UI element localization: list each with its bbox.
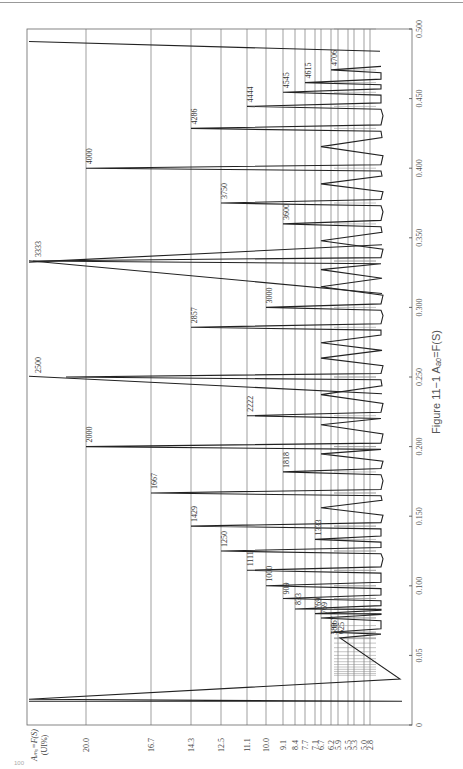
y-axis-tick-labels: 20.016.714.312.511.110.09.18.47.77.16.76… — [82, 738, 375, 752]
svg-text:20.0: 20.0 — [82, 738, 91, 752]
figure-caption: Figure 11−1 Aₐₒ=F(S) — [430, 330, 442, 434]
svg-text:6.7: 6.7 — [317, 740, 326, 750]
svg-text:(UI%): (UI%) — [40, 734, 49, 755]
svg-text:10.0: 10.0 — [262, 738, 271, 752]
svg-text:4000: 4000 — [85, 148, 94, 164]
svg-text:2222: 2222 — [246, 396, 255, 412]
svg-text:2500: 2500 — [34, 357, 43, 373]
svg-text:0.400: 0.400 — [415, 159, 424, 177]
svg-text:11.1: 11.1 — [243, 738, 252, 752]
svg-text:833: 833 — [294, 593, 303, 605]
svg-text:1111: 1111 — [246, 551, 255, 566]
svg-text:2857: 2857 — [190, 307, 199, 323]
svg-text:Aₘₒ=F(S): Aₘₒ=F(S) — [30, 729, 39, 762]
svg-text:4444: 4444 — [246, 86, 255, 102]
svg-text:4615: 4615 — [304, 63, 313, 79]
amo-curve — [29, 42, 402, 702]
svg-text:0.100: 0.100 — [415, 577, 424, 595]
svg-text:909: 909 — [282, 582, 291, 594]
svg-text:14.3: 14.3 — [187, 738, 196, 752]
svg-text:3333: 3333 — [34, 241, 43, 257]
svg-text:5.3: 5.3 — [350, 740, 359, 750]
svg-text:0.05: 0.05 — [415, 648, 424, 662]
svg-text:0.200: 0.200 — [415, 438, 424, 456]
svg-text:0: 0 — [415, 723, 424, 727]
svg-text:9.1: 9.1 — [279, 740, 288, 750]
svg-text:2.8: 2.8 — [366, 740, 375, 750]
svg-text:0.500: 0.500 — [415, 20, 424, 38]
svg-text:0.250: 0.250 — [415, 368, 424, 386]
svg-text:0.300: 0.300 — [415, 298, 424, 316]
svg-text:3600: 3600 — [282, 204, 291, 220]
svg-text:1818: 1818 — [282, 452, 291, 468]
svg-text:16.7: 16.7 — [147, 738, 156, 752]
svg-text:5.9: 5.9 — [334, 740, 343, 750]
svg-text:1250: 1250 — [220, 531, 229, 547]
svg-text:12.5: 12.5 — [217, 738, 226, 752]
svg-text:2000: 2000 — [85, 427, 94, 443]
svg-text:4706: 4706 — [330, 50, 339, 66]
svg-text:4545: 4545 — [282, 72, 291, 88]
svg-text:4286: 4286 — [190, 108, 199, 124]
svg-text:7.7: 7.7 — [301, 740, 310, 750]
svg-text:1667: 1667 — [150, 473, 159, 489]
page-number: 100 — [14, 760, 24, 766]
svg-text:769: 769 — [314, 598, 323, 610]
svg-text:0.450: 0.450 — [415, 90, 424, 108]
svg-text:0.150: 0.150 — [415, 507, 424, 525]
svg-text:8.4: 8.4 — [291, 740, 300, 750]
svg-text:1000: 1000 — [265, 566, 274, 582]
svg-text:667: 667 — [330, 616, 339, 628]
svg-text:3750: 3750 — [220, 183, 229, 199]
x-axis-tick-labels: 00.050.1000.1500.2000.2500.3000.3500.400… — [415, 20, 424, 727]
chart-amo-vs-s: 20.016.714.312.511.110.09.18.47.77.16.76… — [0, 0, 463, 769]
svg-text:1333: 1333 — [314, 519, 323, 535]
svg-text:0.350: 0.350 — [415, 229, 424, 247]
peak-labels: 5886256677697698339091000111112501333142… — [34, 50, 346, 635]
y-axis-title: Aₘₒ=F(S)(UI%) — [30, 729, 49, 762]
svg-text:1429: 1429 — [190, 506, 199, 522]
svg-text:3000: 3000 — [265, 287, 274, 303]
svg-text:Figure 11−1 Aₐₒ=F(S): Figure 11−1 Aₐₒ=F(S) — [430, 330, 442, 434]
